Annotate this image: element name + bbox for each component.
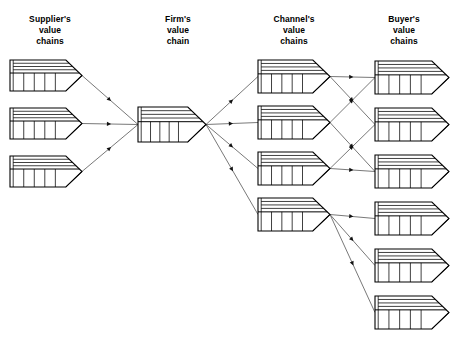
node-layer — [10, 60, 449, 329]
diagram-canvas: Supplier's value chains Firm's value cha… — [0, 0, 467, 345]
value-chain-sup3[interactable] — [10, 156, 82, 187]
value-chain-ch1[interactable] — [258, 60, 330, 93]
value-chain-sup1[interactable] — [10, 60, 82, 91]
value-chain-ch4[interactable] — [258, 198, 330, 231]
edge-sup2-to-firm1 — [82, 122, 138, 126]
column-label-channels: Channel's value chains — [252, 14, 336, 47]
edge-ch4-to-buy6 — [330, 215, 375, 313]
edge-arrowhead-icon — [107, 122, 111, 126]
column-label-firm: Firm's value chain — [142, 14, 214, 47]
value-chain-buy6[interactable] — [375, 296, 449, 329]
edge-firm1-to-ch3 — [206, 125, 258, 169]
chain-outline — [375, 155, 449, 188]
edge-ch4-to-buy5 — [330, 215, 375, 266]
edge-ch3-to-buy2 — [330, 125, 375, 169]
chain-outline — [375, 61, 449, 94]
edge-arrowhead-icon — [349, 168, 353, 172]
edge-firm1-to-ch1 — [206, 77, 258, 125]
edge-arrowhead-icon — [229, 167, 235, 173]
value-chain-buy3[interactable] — [375, 155, 449, 188]
edge-ch3-to-buy3 — [330, 168, 375, 172]
edge-layer — [82, 75, 375, 313]
chain-outline — [375, 296, 449, 329]
edge-arrowhead-icon — [349, 75, 353, 79]
column-label-buyers: Buyer's value chains — [362, 14, 446, 47]
chain-outline — [258, 198, 330, 231]
chain-outline — [138, 107, 206, 142]
chain-outline — [375, 202, 449, 235]
chain-outline — [258, 60, 330, 93]
value-chain-firm1[interactable] — [138, 107, 206, 142]
value-chain-buy4[interactable] — [375, 202, 449, 235]
edge-ch4-to-buy4 — [330, 214, 375, 219]
value-chain-buy5[interactable] — [375, 249, 449, 282]
value-chain-buy2[interactable] — [375, 108, 449, 141]
edge-sup3-to-firm1 — [82, 125, 138, 172]
chain-outline — [375, 108, 449, 141]
edge-arrowhead-icon — [349, 214, 354, 219]
edge-sup1-to-firm1 — [82, 76, 138, 125]
edge-arrowhead-icon — [229, 121, 233, 125]
chain-outline — [375, 249, 449, 282]
edge-firm1-to-ch4 — [206, 125, 258, 215]
value-chain-ch2[interactable] — [258, 106, 330, 139]
value-chain-ch3[interactable] — [258, 152, 330, 185]
column-label-suppliers: Supplier's value chains — [12, 14, 88, 47]
chain-outline — [258, 152, 330, 185]
chain-outline — [258, 106, 330, 139]
value-chain-buy1[interactable] — [375, 61, 449, 94]
edge-arrowhead-icon — [350, 261, 356, 267]
value-chain-sup2[interactable] — [10, 108, 82, 139]
edge-firm1-to-ch2 — [206, 121, 258, 125]
value-system-diagram — [0, 0, 467, 345]
edge-ch1-to-buy1 — [330, 75, 375, 79]
